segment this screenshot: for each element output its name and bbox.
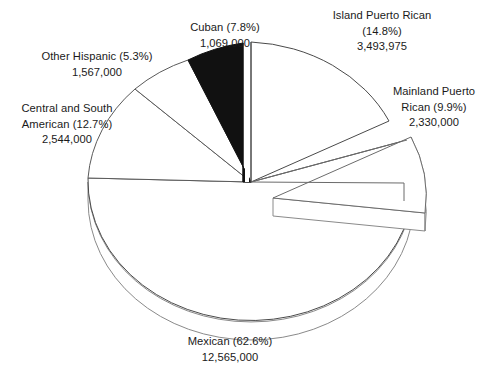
- slice-label-cuban: Cuban (7.8%) 1,069,000: [160, 20, 290, 51]
- slice-label-other-hispanic: Other Hispanic (5.3%) 1,567,000: [22, 49, 172, 80]
- label-line-3: 3,493,975: [302, 39, 462, 55]
- slice-label-mexican: Mexican (62.6%) 12,565,000: [155, 334, 305, 365]
- slice-label-central-and-south-american: Central and South American (12.7%) 2,544…: [2, 101, 132, 148]
- label-line-2: American (12.7%): [2, 117, 132, 133]
- label-line-2: (14.8%): [302, 24, 462, 40]
- slice-label-island-puerto-rican: Island Puerto Rican (14.8%) 3,493,975: [302, 8, 462, 55]
- label-line-1: Mainland Puerto: [384, 84, 484, 100]
- slice-label-mainland-puerto-rican: Mainland Puerto Rican (9.9%) 2,330,000: [384, 84, 484, 131]
- label-line-3: 2,544,000: [2, 132, 132, 148]
- label-line-1: Central and South: [2, 101, 132, 117]
- label-line-2: 1,069,000: [160, 36, 290, 52]
- label-line-2: 12,565,000: [155, 350, 305, 366]
- pie-chart: Island Puerto Rican (14.8%) 3,493,975 Ma…: [0, 0, 484, 378]
- label-line-2: Rican (9.9%): [384, 100, 484, 116]
- label-line-1: Mexican (62.6%): [155, 334, 305, 350]
- label-line-2: 1,567,000: [22, 65, 172, 81]
- label-line-3: 2,330,000: [384, 115, 484, 131]
- label-line-1: Cuban (7.8%): [160, 20, 290, 36]
- label-line-1: Island Puerto Rican: [302, 8, 462, 24]
- label-line-1: Other Hispanic (5.3%): [22, 49, 172, 65]
